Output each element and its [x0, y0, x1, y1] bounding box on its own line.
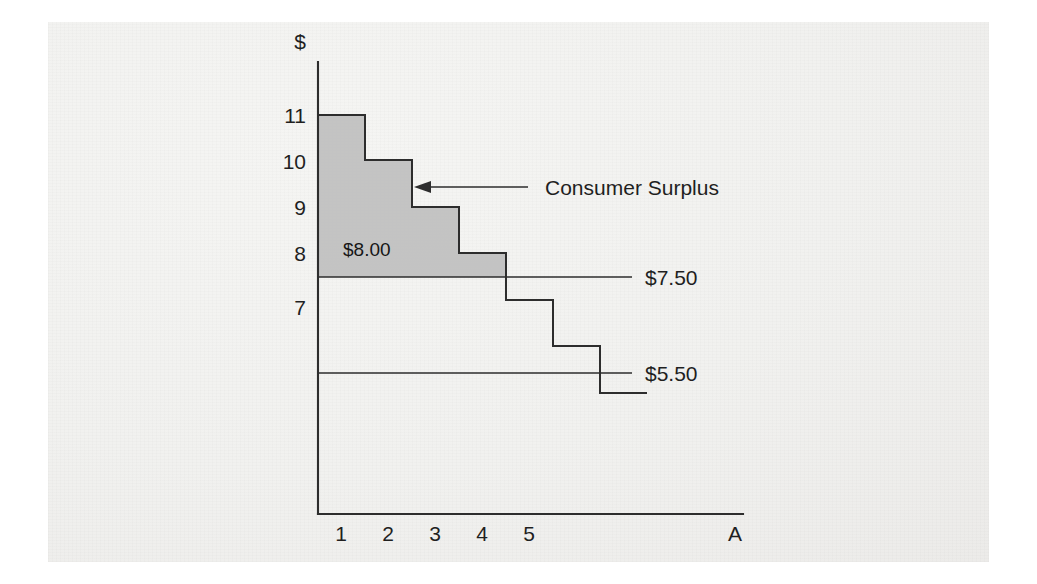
x-tick-label-4: 4	[476, 522, 488, 545]
x-tick-label-5: 5	[523, 522, 535, 545]
y-tick-label-11: 11	[284, 104, 306, 127]
consumer-surplus-chart: $ 11 10 9 8 7 1 2 3 4 5 A Consumer Surpl…	[0, 0, 1037, 584]
figure-page: $ 11 10 9 8 7 1 2 3 4 5 A Consumer Surpl…	[0, 0, 1037, 584]
x-axis-title: A	[728, 522, 742, 545]
y-axis-title: $	[294, 30, 306, 53]
surplus-area-value-label: $8.00	[343, 239, 391, 260]
y-tick-label-7: 7	[294, 296, 306, 319]
price-label-5-50: $5.50	[645, 362, 698, 385]
x-tick-label-3: 3	[429, 522, 441, 545]
x-tick-label-2: 2	[382, 522, 394, 545]
y-tick-label-10: 10	[283, 150, 306, 173]
x-tick-label-1: 1	[335, 522, 347, 545]
y-tick-label-8: 8	[294, 242, 306, 265]
consumer-surplus-callout-label: Consumer Surplus	[545, 176, 719, 199]
surplus-callout-arrowhead	[414, 181, 431, 193]
price-label-7-50: $7.50	[645, 266, 698, 289]
y-tick-label-9: 9	[294, 196, 306, 219]
